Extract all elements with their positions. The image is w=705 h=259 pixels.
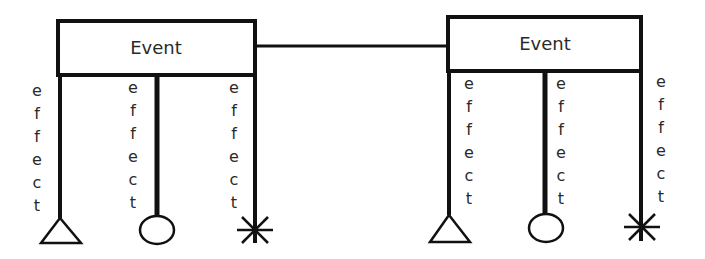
svg-text:f: f [34, 127, 40, 146]
svg-text:e: e [229, 147, 239, 166]
effect-label-vertical: e f f e c t [656, 72, 666, 206]
svg-text:f: f [658, 95, 664, 114]
svg-text:e: e [556, 74, 566, 93]
svg-text:e: e [656, 141, 666, 160]
svg-text:e: e [556, 143, 566, 162]
svg-text:f: f [658, 118, 664, 137]
svg-text:t: t [558, 189, 564, 208]
effect-label-vertical: e f f e c t [128, 78, 138, 212]
svg-text:f: f [130, 124, 136, 143]
svg-text:f: f [558, 97, 564, 116]
svg-text:c: c [129, 170, 138, 189]
svg-text:t: t [34, 196, 40, 215]
svg-text:f: f [130, 101, 136, 120]
svg-text:t: t [658, 187, 664, 206]
effect-label-vertical: e f f e c t [32, 81, 42, 215]
svg-text:e: e [32, 150, 42, 169]
event-left: Event e f f e c t e f f e c [32, 21, 273, 244]
svg-text:c: c [557, 166, 566, 185]
svg-text:t: t [231, 193, 237, 212]
svg-text:t: t [466, 189, 472, 208]
svg-text:f: f [34, 104, 40, 123]
svg-text:e: e [464, 143, 474, 162]
svg-text:c: c [230, 170, 239, 189]
svg-text:f: f [466, 120, 472, 139]
triangle-terminator-icon [430, 215, 470, 242]
effect-branch-asterisk: e f f e c t [229, 75, 273, 243]
effect-branch-asterisk: e f f e c t [624, 71, 666, 241]
svg-text:c: c [465, 166, 474, 185]
svg-text:e: e [464, 74, 474, 93]
svg-text:f: f [231, 124, 237, 143]
svg-text:f: f [558, 120, 564, 139]
effect-label-vertical: e f f e c t [556, 74, 566, 208]
effect-label-vertical: e f f e c t [464, 74, 474, 208]
triangle-terminator-icon [41, 218, 81, 243]
svg-text:f: f [466, 97, 472, 116]
event-title: Event [130, 37, 182, 58]
effect-branch-circle: e f f e c t [128, 75, 174, 244]
event-title: Event [519, 33, 571, 54]
effect-label-vertical: e f f e c t [229, 78, 239, 212]
svg-text:c: c [33, 173, 42, 192]
svg-text:e: e [128, 78, 138, 97]
event-right: Event e f f e c t e f f e c [430, 17, 666, 242]
effect-branch-triangle: e f f e c t [430, 71, 474, 242]
svg-text:e: e [656, 72, 666, 91]
svg-text:e: e [32, 81, 42, 100]
effect-branch-triangle: e f f e c t [32, 75, 81, 243]
svg-text:t: t [130, 193, 136, 212]
svg-text:f: f [231, 101, 237, 120]
circle-terminator-icon [140, 216, 174, 244]
effect-branch-circle: e f f e c t [529, 71, 566, 242]
svg-text:c: c [657, 164, 666, 183]
svg-text:e: e [229, 78, 239, 97]
svg-text:e: e [128, 147, 138, 166]
circle-terminator-icon [529, 214, 563, 242]
event-effect-diagram: Event e f f e c t e f f e c [0, 0, 705, 259]
